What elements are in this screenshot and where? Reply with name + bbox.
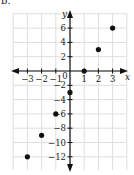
data-point bbox=[53, 111, 58, 116]
x-tick-label: −3 bbox=[21, 74, 34, 84]
x-tick-label: 3 bbox=[110, 74, 115, 84]
y-tick-label: −8 bbox=[53, 123, 66, 133]
y-axis-down-arrow-icon bbox=[67, 164, 73, 172]
y-tick-label: 4 bbox=[61, 37, 66, 47]
x-tick-label: 2 bbox=[96, 74, 101, 84]
x-tick-label: −2 bbox=[35, 74, 48, 84]
y-tick-label: −2 bbox=[53, 80, 66, 90]
data-point bbox=[39, 133, 44, 138]
x-axis-left-arrow-icon bbox=[11, 68, 19, 74]
y-tick-label: 6 bbox=[61, 23, 66, 33]
scatter-plot: −3−2−10123642−2−4−6−8−10−12xy bbox=[0, 0, 134, 175]
data-point bbox=[25, 154, 30, 159]
x-tick-label: 1 bbox=[81, 74, 86, 84]
y-tick-label: −10 bbox=[48, 138, 66, 148]
x-axis-label: x bbox=[125, 72, 130, 82]
data-point bbox=[96, 47, 101, 52]
data-point bbox=[82, 68, 87, 73]
y-axis-label: y bbox=[61, 9, 68, 19]
y-tick-label: −12 bbox=[48, 152, 66, 162]
y-tick-label: −4 bbox=[53, 95, 66, 105]
data-point bbox=[67, 90, 72, 95]
y-tick-label: 2 bbox=[61, 52, 66, 62]
data-point bbox=[110, 26, 115, 31]
